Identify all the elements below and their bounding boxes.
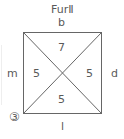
side-label-bottom: l bbox=[61, 121, 64, 132]
region-value-left: 5 bbox=[33, 68, 40, 79]
corner-marker: ③ bbox=[9, 111, 20, 123]
side-label-right: d bbox=[111, 68, 118, 79]
side-label-left: m bbox=[7, 68, 18, 79]
side-label-top: b bbox=[58, 17, 65, 28]
region-value-top: 7 bbox=[58, 42, 65, 53]
region-value-right: 5 bbox=[86, 68, 93, 79]
region-value-bottom: 5 bbox=[58, 94, 65, 105]
diagram-title: FurⅡ bbox=[51, 4, 74, 15]
